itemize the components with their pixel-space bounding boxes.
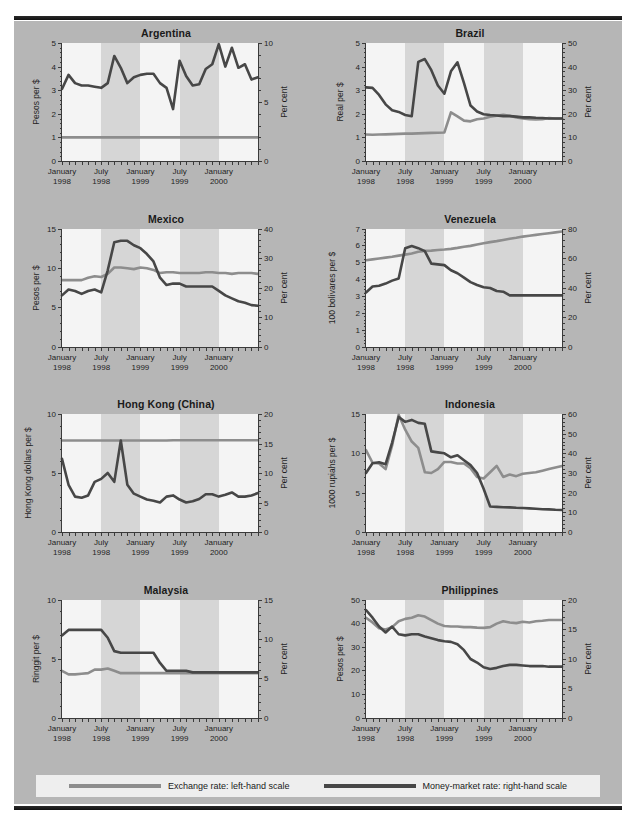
x-tick-label: July1998 (396, 538, 414, 558)
y-tick-label: 10 (568, 508, 577, 517)
chart-venezuela: Venezuela01234567020406080100 bolivares … (318, 207, 622, 393)
y-tick-label: 0 (264, 528, 268, 537)
x-tick-label-month: July (476, 538, 490, 547)
x-tick-label: January1999 (430, 353, 458, 373)
line-money-market-rate (366, 245, 562, 294)
x-tick-labels: January1998July1998January1999July1999Ja… (62, 167, 258, 191)
x-tick-label-month: July (172, 724, 186, 733)
series-lines (62, 600, 258, 718)
y-tick-label: 30 (568, 86, 577, 95)
x-tick-labels: January1998July1998January1999July1999Ja… (62, 353, 258, 377)
y-ticks-left (361, 43, 366, 161)
y-tick-label: 10 (264, 39, 273, 48)
x-tick-label-month: January (126, 167, 154, 176)
y-tick-label: 40 (351, 619, 360, 628)
y-tick-label: 40 (568, 283, 577, 292)
x-tick-label-month: January (352, 538, 380, 547)
y-tick-label: 10 (47, 263, 56, 272)
y-tick-label: 40 (568, 62, 577, 71)
x-tick-label: January1998 (48, 724, 76, 744)
chart-argentina: Argentina0123450510Pesos per $Per centJa… (14, 21, 318, 207)
x-tick-label-month: January (205, 353, 233, 362)
x-tick-label: July1999 (171, 167, 189, 187)
y-tick-label: 20 (568, 313, 577, 322)
x-tick-label: July1999 (171, 538, 189, 558)
x-tick-label-month: July (398, 724, 412, 733)
legend-swatch-money-market-rate (324, 784, 416, 788)
y-tick-label: 20 (264, 410, 273, 419)
y-tick-label: 40 (568, 449, 577, 458)
x-tick-label-year: 1999 (131, 548, 149, 557)
chart-title: Hong Kong (China) (14, 398, 318, 410)
chart-brazil: Brazil01234501020304050Real per $Per cen… (318, 21, 622, 207)
x-tick-label: January1998 (352, 538, 380, 558)
x-tick-label: January2000 (509, 353, 537, 373)
y-tick-label: 10 (351, 449, 360, 458)
x-tick-label-year: 1998 (396, 548, 414, 557)
x-tick-label-year: 1998 (53, 548, 71, 557)
x-tick-label: January1998 (48, 353, 76, 373)
y-tick-label: 4 (356, 62, 360, 71)
x-tick-label: January2000 (509, 538, 537, 558)
y-tick-label: 30 (264, 254, 273, 263)
y-tick-label: 4 (52, 62, 56, 71)
x-tick-label-year: 1999 (435, 734, 453, 743)
x-tick-marks (62, 718, 258, 723)
plot-area: 051015010203040Pesos per $Per centJanuar… (62, 229, 258, 347)
x-tick-label-month: July (476, 724, 490, 733)
y-tick-label: 20 (568, 595, 577, 604)
x-tick-label-month: July (94, 538, 108, 547)
y-tick-label: 60 (568, 410, 577, 419)
x-tick-label-year: 1999 (475, 548, 493, 557)
chart-title: Brazil (318, 27, 622, 39)
plot-area: 0123450510Pesos per $Per centJanuary1998… (62, 43, 258, 161)
figure-panel: Argentina0123450510Pesos per $Per centJa… (14, 21, 622, 804)
x-tick-label-year: 1999 (131, 734, 149, 743)
x-tick-label: January1999 (430, 167, 458, 187)
y-tick-label: 5 (356, 488, 360, 497)
y-tick-label: 10 (264, 634, 273, 643)
chart-malaysia: Malaysia0510051015Ringgit per $Per centJ… (14, 578, 318, 764)
y-axis-title-right: Per cent (583, 272, 593, 304)
y-tick-label: 2 (356, 109, 360, 118)
x-tick-label-year: 1998 (396, 177, 414, 186)
x-tick-label-month: January (205, 538, 233, 547)
y-tick-label: 0 (356, 157, 360, 166)
y-tick-label: 20 (568, 109, 577, 118)
y-tick-label: 5 (356, 39, 360, 48)
y-tick-label: 10 (264, 469, 273, 478)
y-axis-title-right: Per cent (279, 643, 289, 675)
y-tick-label: 1 (356, 325, 360, 334)
y-ticks-right (258, 229, 263, 347)
x-tick-label-month: January (509, 353, 537, 362)
y-tick-label: 0 (52, 713, 56, 722)
y-tick-label: 20 (568, 488, 577, 497)
y-ticks-left (57, 414, 62, 532)
legend-item-money-market-rate: Money-market rate: right-hand scale (324, 781, 568, 791)
x-tick-label-month: July (172, 538, 186, 547)
x-tick-label-month: January (352, 724, 380, 733)
y-axis-title-right: Per cent (583, 457, 593, 489)
x-tick-label-year: 1999 (131, 177, 149, 186)
y-tick-label: 2 (356, 308, 360, 317)
x-tick-label-month: January (352, 353, 380, 362)
y-tick-label: 1 (52, 133, 56, 142)
x-tick-label: January1998 (352, 724, 380, 744)
x-tick-label: July1998 (92, 538, 110, 558)
legend: Exchange rate: left-hand scale Money-mar… (36, 775, 600, 797)
y-tick-label: 0 (568, 157, 572, 166)
chart-title: Indonesia (318, 398, 622, 410)
y-axis-title-left: Pesos per $ (31, 265, 41, 310)
chart-philippines: Philippines0102030405005101520Pesos per … (318, 578, 622, 764)
x-tick-labels: January1998July1998January1999July1999Ja… (62, 538, 258, 562)
y-tick-label: 1 (356, 133, 360, 142)
x-tick-labels: January1998July1998January1999July1999Ja… (366, 724, 562, 748)
x-tick-label: January1999 (126, 167, 154, 187)
line-money-market-rate (366, 59, 562, 118)
x-tick-label-month: January (509, 538, 537, 547)
x-tick-label-year: 1999 (435, 363, 453, 372)
y-ticks-right (258, 600, 263, 718)
series-lines (366, 414, 562, 532)
x-tick-label-month: January (205, 167, 233, 176)
x-tick-labels: January1998July1998January1999July1999Ja… (366, 538, 562, 562)
